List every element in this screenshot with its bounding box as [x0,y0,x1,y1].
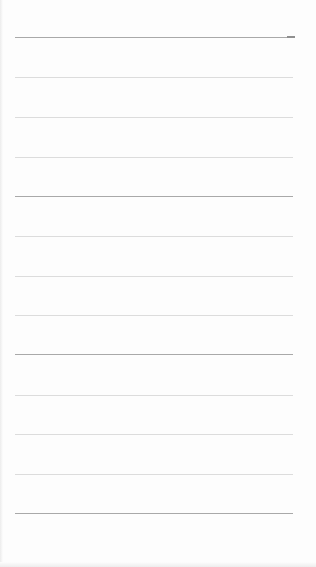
light-rule-line [15,474,293,475]
dark-rule-line [15,37,293,38]
dark-rule-line [15,513,293,514]
light-rule-line [15,157,293,158]
ruled-sheet [0,0,316,567]
light-rule-line [15,434,293,435]
dark-rule-line [15,196,293,197]
light-rule-line [15,315,293,316]
dark-rule-line [15,354,293,355]
light-rule-line [15,395,293,396]
light-rule-line [15,276,293,277]
light-rule-line [15,236,293,237]
sheet-left-edge [0,0,3,567]
rule-end-tick [287,36,295,38]
light-rule-line [15,77,293,78]
light-rule-line [15,117,293,118]
sheet-bottom-edge [0,562,316,567]
